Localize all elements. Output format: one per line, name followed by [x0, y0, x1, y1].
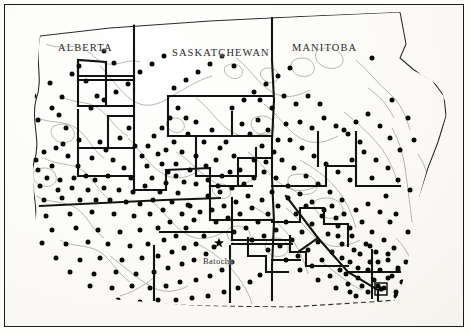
- settlement-dot: [84, 174, 89, 179]
- settlement-dot: [168, 220, 173, 225]
- settlement-dot: [262, 234, 267, 239]
- settlement-dot: [320, 214, 325, 219]
- settlement-dot: [342, 128, 347, 133]
- settlement-dot: [310, 126, 315, 131]
- settlement-dot: [234, 200, 239, 205]
- settlement-dot: [180, 262, 185, 267]
- settlement-dot: [151, 198, 156, 203]
- settlement-dot: [194, 120, 199, 125]
- settlement-dot: [370, 230, 375, 235]
- settlement-dot: [160, 162, 165, 167]
- settlement-dot: [184, 78, 189, 83]
- settlement-dot: [48, 81, 53, 86]
- province-label-saskatchewan: SASKATCHEWAN: [172, 47, 270, 58]
- settlement-dot: [196, 70, 201, 75]
- settlement-dot: [338, 268, 343, 273]
- settlement-dot: [174, 298, 179, 303]
- settlement-dot: [238, 168, 243, 173]
- settlement-dot: [336, 234, 341, 239]
- settlement-dot: [334, 286, 339, 291]
- settlement-dot: [78, 258, 83, 263]
- settlement-dot: [34, 158, 39, 163]
- settlement-dot: [170, 250, 175, 255]
- settlement-dot: [184, 116, 189, 121]
- settlement-dot: [222, 290, 227, 295]
- settlement-dot: [98, 256, 103, 261]
- settlement-dot: [386, 252, 391, 257]
- settlement-dot: [284, 220, 289, 225]
- settlement-dot: [370, 176, 375, 181]
- settlement-dot: [288, 66, 293, 71]
- settlement-dot: [298, 268, 303, 273]
- settlement-dot: [112, 61, 117, 66]
- settlement-dot: [252, 90, 257, 95]
- settlement-dot: [117, 188, 122, 193]
- settlement-dot: [110, 286, 115, 291]
- settlement-dot: [102, 186, 107, 191]
- settlement-dot: [112, 212, 117, 217]
- settlement-dot: [182, 180, 187, 185]
- settlement-dot: [170, 200, 175, 205]
- settlement-dot: [300, 230, 305, 235]
- settlement-dot: [120, 258, 125, 263]
- settlement-dot: [310, 200, 315, 205]
- settlement-dot: [408, 284, 413, 289]
- settlement-dot: [54, 256, 59, 261]
- settlement-dot: [406, 116, 411, 121]
- settlement-dot: [50, 164, 55, 169]
- settlement-dot: [256, 220, 261, 225]
- settlement-dot: [298, 120, 303, 125]
- settlement-dot: [182, 246, 187, 251]
- settlement-dot: [242, 98, 247, 103]
- settlement-dot: [250, 206, 255, 211]
- settlement-dot: [160, 126, 165, 131]
- settlement-dot: [230, 186, 235, 191]
- settlement-dot: [278, 244, 283, 249]
- settlement-dot: [266, 248, 271, 253]
- settlement-dot: [404, 260, 409, 265]
- settlement-dot: [168, 116, 173, 121]
- settlement-dot: [129, 176, 134, 181]
- settlement-dot: [354, 294, 359, 299]
- settlement-dot: [45, 176, 50, 181]
- settlement-dot: [126, 82, 131, 87]
- settlement-dot: [198, 210, 203, 215]
- settlement-dot: [334, 124, 339, 129]
- settlement-dot: [316, 278, 321, 283]
- settlement-dot: [300, 146, 305, 151]
- settlement-dot: [402, 288, 407, 293]
- settlement-dot: [111, 158, 116, 163]
- settlement-dot: [360, 284, 365, 289]
- settlement-dot: [222, 204, 227, 209]
- settlement-dot: [166, 170, 171, 175]
- settlement-dot: [122, 166, 127, 171]
- settlement-dot: [390, 274, 395, 279]
- settlement-dot: [356, 276, 361, 281]
- settlement-dot: [358, 252, 363, 257]
- settlement-dot: [354, 208, 359, 213]
- settlement-dot: [178, 280, 183, 285]
- settlement-dot: [310, 264, 315, 269]
- settlement-dot: [161, 208, 166, 213]
- settlement-dot: [210, 208, 215, 213]
- settlement-dot: [350, 234, 355, 239]
- settlement-dot: [152, 134, 157, 139]
- settlement-dot: [180, 212, 185, 217]
- settlement-dot: [252, 158, 257, 163]
- settlement-dot: [386, 166, 391, 171]
- settlement-dot: [372, 278, 377, 283]
- settlement-dot: [124, 200, 129, 205]
- settlement-dot: [366, 202, 371, 207]
- settlement-dot: [180, 150, 185, 155]
- settlement-dot: [156, 226, 161, 231]
- settlement-dot: [127, 126, 132, 131]
- settlement-dot: [25, 194, 30, 199]
- settlement-dot: [378, 268, 383, 273]
- settlement-dot: [316, 240, 321, 245]
- settlement-dot: [296, 254, 301, 259]
- settlement-dot: [336, 170, 341, 175]
- settlement-dot: [36, 168, 41, 173]
- settlement-dot: [148, 212, 153, 217]
- settlement-dot: [348, 178, 353, 183]
- settlement-dot: [60, 196, 65, 201]
